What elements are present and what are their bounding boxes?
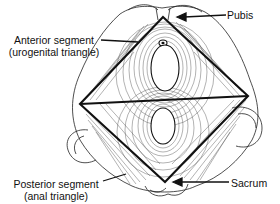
anterior-segment-title: Anterior segment (4, 34, 104, 46)
pelvic-floor-diagram: Pubis Sacrum Anterior segment (urogenita… (0, 0, 280, 204)
anal-opening (151, 108, 175, 144)
sacrum-arrowhead (173, 178, 182, 186)
sacrum-label: Sacrum (231, 177, 267, 189)
vaginal-opening (151, 45, 179, 91)
anterior-segment-subtitle: (urogenital triangle) (4, 46, 104, 58)
posterior-segment-title: Posterior segment (6, 178, 106, 190)
posterior-segment-label: Posterior segment (anal triangle) (6, 178, 106, 202)
pubis-arrowhead (177, 13, 186, 21)
anterior-segment-label: Anterior segment (urogenital triangle) (4, 34, 104, 58)
anatomy-illustration (0, 0, 280, 204)
posterior-segment-subtitle: (anal triangle) (6, 190, 106, 202)
pubis-label: Pubis (227, 9, 253, 21)
